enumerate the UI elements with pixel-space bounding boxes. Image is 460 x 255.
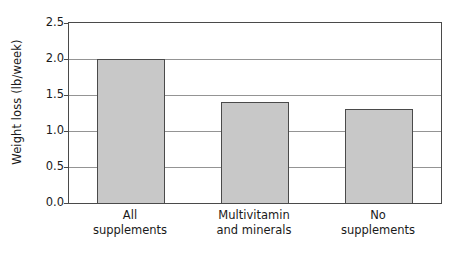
x-axis-tick-label: Nosupplements	[316, 208, 440, 237]
y-axis-tick-label: 1.5	[46, 87, 64, 101]
x-axis-tick-label: Allsupplements	[68, 208, 192, 237]
y-axis-tick-mark	[64, 203, 69, 204]
y-axis-tick-mark	[64, 95, 69, 96]
y-axis-title-label: Weight loss (lb/week)	[10, 39, 24, 164]
y-axis-tick-label: 1.0	[46, 123, 64, 137]
y-axis-title: Weight loss (lb/week)	[0, 0, 34, 204]
y-axis-tick-label: 0.0	[46, 195, 64, 209]
bar	[97, 59, 165, 203]
x-axis-tick-label-line: supplements	[68, 223, 192, 238]
y-axis-tick-label: 2.0	[46, 51, 64, 65]
y-axis-tick-label: 2.5	[46, 15, 64, 29]
x-axis-tick-label: Multivitaminand minerals	[192, 208, 316, 237]
y-axis-tick-mark	[64, 131, 69, 132]
x-axis-tick-label-line: supplements	[316, 223, 440, 238]
x-axis-tick-label-line: Multivitamin	[192, 208, 316, 223]
y-axis-tick-label: 0.5	[46, 159, 64, 173]
y-axis-tick-mark	[64, 167, 69, 168]
y-axis-tick-mark	[64, 59, 69, 60]
x-axis-tick-labels: AllsupplementsMultivitaminand mineralsNo…	[68, 208, 442, 252]
x-axis-tick-label-line: No	[316, 208, 440, 223]
bar	[221, 102, 289, 203]
bar	[345, 109, 413, 203]
x-axis-tick-label-line: and minerals	[192, 223, 316, 238]
plot-area	[68, 22, 442, 204]
x-axis-tick-label-line: All	[68, 208, 192, 223]
y-axis-tick-labels: 0.00.51.01.52.02.5	[30, 22, 64, 204]
y-axis-tick-mark	[64, 23, 69, 24]
bar-chart: Weight loss (lb/week) 0.00.51.01.52.02.5…	[0, 0, 460, 255]
